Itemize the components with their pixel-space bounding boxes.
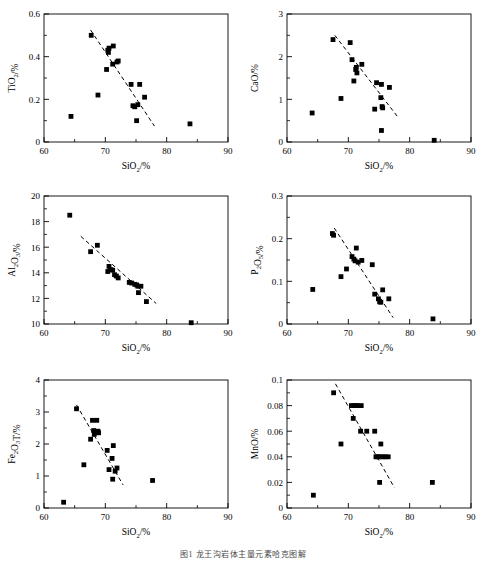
x-tick-label: 70 xyxy=(101,512,111,522)
x-tick-label: 80 xyxy=(162,146,172,156)
data-point xyxy=(134,118,139,123)
y-tick-label: 4 xyxy=(36,375,41,385)
data-point xyxy=(137,82,142,87)
plot-frame xyxy=(287,196,471,324)
x-tick-label: 70 xyxy=(344,512,354,522)
y-axis-label: Fe2O3T/% xyxy=(7,424,22,463)
data-point xyxy=(351,416,356,421)
data-point xyxy=(379,128,384,133)
y-tick-label: 0.06 xyxy=(267,427,283,437)
data-point xyxy=(88,437,93,442)
panel-cao: 607080900123SiO2/%CaO/% xyxy=(243,0,486,178)
y-tick-label: 1 xyxy=(279,95,284,105)
data-point xyxy=(88,249,93,254)
data-point xyxy=(89,33,94,38)
x-tick-label: 60 xyxy=(283,146,293,156)
x-tick-label: 60 xyxy=(283,328,293,338)
data-point xyxy=(350,57,355,62)
data-point xyxy=(310,287,315,292)
data-point xyxy=(129,82,134,87)
data-point xyxy=(69,114,74,119)
y-axis-label: TiO2/% xyxy=(7,64,20,93)
plot-tio2: 6070809000.20.40.6SiO2/%TiO2/% xyxy=(0,0,243,178)
data-point xyxy=(430,480,435,485)
data-point xyxy=(81,462,86,467)
data-point xyxy=(380,287,385,292)
y-tick-label: 0 xyxy=(279,503,284,513)
data-point xyxy=(380,105,385,110)
y-tick-label: 0.2 xyxy=(272,234,283,244)
x-tick-label: 90 xyxy=(467,512,477,522)
data-point xyxy=(378,300,383,305)
data-point xyxy=(142,95,147,100)
panel-tio2: 6070809000.20.40.6SiO2/%TiO2/% xyxy=(0,0,243,178)
harker-diagram-figure: 6070809000.20.40.6SiO2/%TiO2/% 607080900… xyxy=(0,0,486,561)
data-point xyxy=(339,442,344,447)
data-point xyxy=(431,316,436,321)
x-tick-label: 70 xyxy=(344,146,354,156)
y-tick-label: 18 xyxy=(31,217,41,227)
data-point xyxy=(139,284,144,289)
data-point xyxy=(379,82,384,87)
y-tick-label: 2 xyxy=(279,52,284,62)
y-tick-label: 0.3 xyxy=(272,191,284,201)
y-tick-label: 16 xyxy=(31,243,41,253)
data-point xyxy=(331,37,336,42)
y-axis-label: MnO/% xyxy=(250,429,260,460)
data-point xyxy=(96,93,101,98)
data-point xyxy=(386,296,391,301)
x-tick-label: 90 xyxy=(467,146,477,156)
x-tick-label: 60 xyxy=(40,512,50,522)
y-tick-label: 0 xyxy=(279,319,284,329)
data-point xyxy=(351,79,356,84)
data-point xyxy=(107,467,112,472)
y-tick-label: 0.1 xyxy=(272,277,283,287)
data-point xyxy=(359,62,364,67)
x-tick-label: 90 xyxy=(224,146,234,156)
x-tick-label: 70 xyxy=(101,146,111,156)
x-tick-label: 80 xyxy=(405,512,415,522)
data-point xyxy=(110,62,115,67)
figure-caption: 图1 龙王沟岩体主量元素哈克图解 xyxy=(0,548,486,561)
data-point xyxy=(364,429,369,434)
trendline xyxy=(335,384,394,488)
data-point xyxy=(372,292,377,297)
y-tick-label: 0.6 xyxy=(29,9,41,19)
trendline xyxy=(334,228,393,318)
data-point xyxy=(387,85,392,90)
data-point xyxy=(67,213,72,218)
data-point xyxy=(110,456,115,461)
x-tick-label: 80 xyxy=(162,512,172,522)
plot-mno: 6070809000.020.040.060.080.1SiO2/%MnO/% xyxy=(243,366,486,544)
data-point xyxy=(432,138,437,143)
data-point xyxy=(115,466,120,471)
x-tick-label: 60 xyxy=(283,512,293,522)
data-point xyxy=(386,454,391,459)
data-point xyxy=(348,40,353,45)
x-tick-label: 70 xyxy=(344,328,354,338)
data-point xyxy=(106,50,111,55)
trendline xyxy=(91,30,155,126)
x-tick-label: 90 xyxy=(467,328,477,338)
plot-fe2o3t: 6070809001234SiO2/%Fe2O3T/% xyxy=(0,366,243,544)
data-point xyxy=(359,403,364,408)
data-point xyxy=(111,443,116,448)
data-point xyxy=(110,268,115,273)
data-point xyxy=(136,290,141,295)
data-point xyxy=(339,96,344,101)
data-point xyxy=(331,390,336,395)
x-tick-label: 80 xyxy=(405,146,415,156)
data-point xyxy=(135,102,140,107)
y-tick-label: 0.02 xyxy=(267,478,283,488)
data-point xyxy=(189,320,194,325)
data-point xyxy=(359,258,364,263)
trendline xyxy=(81,236,156,303)
y-tick-label: 0.04 xyxy=(267,452,283,462)
data-point xyxy=(110,477,115,482)
y-tick-label: 0.4 xyxy=(29,52,41,62)
data-point xyxy=(74,406,79,411)
plot-cao: 607080900123SiO2/%CaO/% xyxy=(243,0,486,178)
y-tick-label: 3 xyxy=(279,9,284,19)
x-axis-label: SiO2/% xyxy=(122,161,151,173)
data-point xyxy=(377,480,382,485)
